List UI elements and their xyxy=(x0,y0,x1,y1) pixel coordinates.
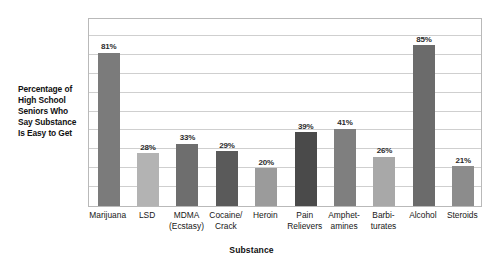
x-axis-tick-label-line: Relievers xyxy=(285,221,324,232)
bar-value-label: 85% xyxy=(416,35,431,44)
bar[interactable] xyxy=(98,53,120,206)
bar-value-label: 81% xyxy=(101,42,116,51)
bar-slot: 26% xyxy=(365,19,404,206)
bar[interactable] xyxy=(295,132,317,206)
x-axis-tick-label: Cocaine/Crack xyxy=(206,210,245,231)
x-axis-tick-label: Barbi-turates xyxy=(364,210,403,231)
bar-value-label: 28% xyxy=(140,143,155,152)
x-axis-tick-labels: MarijuanaLSDMDMA(Ecstasy)Cocaine/CrackHe… xyxy=(88,210,482,244)
bar-slot: 20% xyxy=(247,19,286,206)
bar[interactable] xyxy=(255,168,277,206)
x-axis-tick-label-line: Cocaine/ xyxy=(206,210,245,221)
y-axis-title-line-5: Is Easy to Get xyxy=(18,128,90,139)
x-axis-tick-label: MDMA(Ecstasy) xyxy=(167,210,206,231)
y-axis-title-line-2: High School xyxy=(18,95,90,106)
x-axis-tick-label-line: Alcohol xyxy=(403,210,442,221)
bar-slot: 41% xyxy=(325,19,364,206)
bar-value-label: 33% xyxy=(180,133,195,142)
bar-value-label: 20% xyxy=(259,158,274,167)
bar-value-label: 41% xyxy=(337,118,352,127)
x-axis-tick-label-line: Steroids xyxy=(443,210,482,221)
bar-chart-figure: Percentage of High School Seniors Who Sa… xyxy=(0,0,503,264)
bar[interactable] xyxy=(137,153,159,206)
x-axis-tick-label-line: Crack xyxy=(206,221,245,232)
x-axis-tick-label-line: Amphet- xyxy=(324,210,363,221)
bar[interactable] xyxy=(413,45,435,206)
bar-value-label: 26% xyxy=(377,146,392,155)
x-axis-tick-label-line: Heroin xyxy=(246,210,285,221)
x-axis-tick-label-line: Marijuana xyxy=(88,210,127,221)
bar[interactable] xyxy=(373,157,395,206)
bar-series: 81%28%33%29%20%39%41%26%85%21% xyxy=(89,19,481,206)
bar-value-label: 39% xyxy=(298,122,313,131)
bar-value-label: 21% xyxy=(456,156,471,165)
x-axis-tick-label-line: Barbi- xyxy=(364,210,403,221)
bar-slot: 33% xyxy=(168,19,207,206)
x-axis-tick-label-line: MDMA xyxy=(167,210,206,221)
bar-value-label: 29% xyxy=(219,141,234,150)
x-axis-tick-label: PainRelievers xyxy=(285,210,324,231)
x-axis-title: Substance xyxy=(0,245,503,255)
x-axis-tick-label: LSD xyxy=(127,210,166,221)
bar[interactable] xyxy=(334,129,356,206)
bar[interactable] xyxy=(216,151,238,206)
bar-slot: 85% xyxy=(404,19,443,206)
y-axis-title: Percentage of High School Seniors Who Sa… xyxy=(18,84,90,139)
x-axis-tick-label: Heroin xyxy=(246,210,285,221)
bar-slot: 39% xyxy=(286,19,325,206)
x-axis-tick-label-line: (Ecstasy) xyxy=(167,221,206,232)
x-axis-tick-label-line: turates xyxy=(364,221,403,232)
x-axis-tick-label: Amphet-amines xyxy=(324,210,363,231)
bar-slot: 21% xyxy=(444,19,483,206)
x-axis-tick-label-line: LSD xyxy=(127,210,166,221)
x-axis-tick-label: Steroids xyxy=(443,210,482,221)
x-axis-tick-label: Marijuana xyxy=(88,210,127,221)
plot-area: 81%28%33%29%20%39%41%26%85%21% xyxy=(88,18,482,207)
bar-slot: 81% xyxy=(89,19,128,206)
y-axis-title-line-3: Seniors Who xyxy=(18,106,90,117)
bar[interactable] xyxy=(176,144,198,206)
x-axis-tick-label-line: Pain xyxy=(285,210,324,221)
x-axis-tick-label: Alcohol xyxy=(403,210,442,221)
x-axis-tick-label-line: amines xyxy=(324,221,363,232)
bar-slot: 29% xyxy=(207,19,246,206)
bar[interactable] xyxy=(452,166,474,206)
y-axis-title-line-1: Percentage of xyxy=(18,84,90,95)
y-axis-title-line-4: Say Substance xyxy=(18,117,90,128)
bar-slot: 28% xyxy=(128,19,167,206)
